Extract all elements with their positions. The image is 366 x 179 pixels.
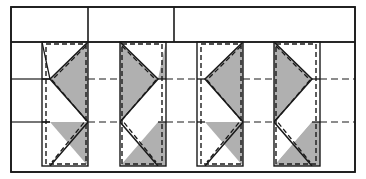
header-cell-3[interactable]	[174, 7, 355, 42]
header-cell-2[interactable]	[88, 7, 174, 42]
bracing-module-1[interactable]	[42, 42, 88, 166]
bracing-module-3[interactable]	[197, 42, 243, 166]
bracing-module-4[interactable]	[274, 42, 320, 166]
header-cell-1[interactable]	[11, 7, 88, 42]
bracing-module-2[interactable]	[120, 42, 166, 166]
diagram-canvas	[0, 0, 366, 179]
structural-elevation-diagram	[0, 0, 366, 179]
